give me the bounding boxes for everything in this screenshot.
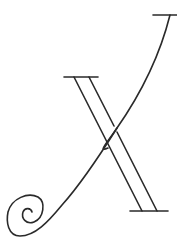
decorative-letter-x: X xyxy=(0,0,177,250)
main-stroke-right-upper xyxy=(89,77,114,126)
main-stroke-right-lower xyxy=(117,132,157,211)
hairline-stroke xyxy=(103,15,170,149)
letter-x-drawing xyxy=(0,0,177,250)
main-stroke-left xyxy=(74,77,142,211)
hairline-stroke-lower xyxy=(7,128,117,236)
